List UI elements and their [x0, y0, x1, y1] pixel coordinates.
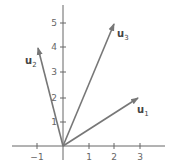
x-tick-label: −1 [30, 152, 43, 162]
label-u3: u3 [117, 28, 129, 42]
label-u1: u1 [137, 104, 149, 118]
vector-u3 [63, 24, 114, 146]
x-tick-label: 1 [86, 152, 92, 162]
x-tick-label: 3 [137, 152, 143, 162]
y-tick-label: 5 [51, 18, 57, 28]
y-tick-label: 4 [51, 42, 57, 52]
y-tick-label: 3 [51, 67, 57, 77]
vector-u1 [63, 98, 138, 146]
vector-u2 [38, 48, 63, 146]
vector-diagram: −1 1 2 3 1 2 3 4 5 u1 u2 u3 [0, 0, 172, 166]
label-u2: u2 [25, 55, 37, 69]
x-tick-label: 2 [111, 152, 117, 162]
